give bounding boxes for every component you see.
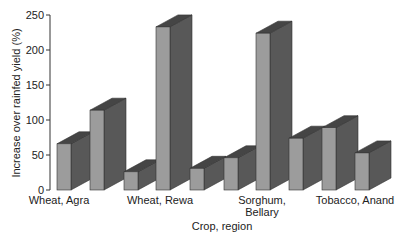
y-tick-label: 200 — [26, 44, 44, 56]
y-axis-title: Increase over rainfed yield (%) — [10, 28, 22, 177]
y-tick-label: 250 — [26, 9, 44, 21]
x-category-label: Bellary — [245, 206, 279, 218]
bar — [190, 156, 226, 190]
bar — [322, 116, 358, 190]
x-category-label: Wheat, Rewa — [127, 194, 194, 206]
bar — [124, 160, 160, 190]
bar — [90, 98, 126, 190]
bars — [57, 15, 391, 190]
x-category-label: Tobacco, Anand — [316, 194, 394, 206]
x-axis-labels: Wheat, AgraWheat, RewaSorghum,BellaryTob… — [29, 194, 394, 218]
bar — [355, 141, 391, 190]
x-axis-title: Crop, region — [192, 220, 253, 232]
bar-chart: 050100150200250 Wheat, AgraWheat, RewaSo… — [0, 0, 402, 237]
bar — [224, 146, 260, 190]
x-category-label: Wheat, Agra — [29, 194, 90, 206]
y-tick-label: 100 — [26, 114, 44, 126]
bar — [57, 132, 93, 190]
y-axis: 050100150200250 — [26, 9, 50, 196]
bar — [256, 21, 292, 190]
bar — [289, 126, 325, 190]
y-tick-label: 50 — [32, 149, 44, 161]
y-tick-label: 150 — [26, 79, 44, 91]
bar — [156, 15, 192, 190]
x-category-label: Sorghum, — [238, 194, 286, 206]
